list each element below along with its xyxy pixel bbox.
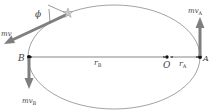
focus-o-label: O [163, 60, 171, 70]
momentum-a-arrow [196, 17, 205, 56]
angle-label: ϕ [35, 9, 41, 19]
radius-b-label: rB [94, 58, 102, 68]
angle-marker [49, 9, 50, 22]
point-b-label: B [17, 53, 25, 63]
point-a-label: A [202, 54, 209, 63]
momentum-b-label: mvB [22, 97, 37, 106]
momentum-general-label: mv [1, 30, 12, 38]
orbit-diagram: ϕ mv mvA mvB B A O rB rA [0, 0, 213, 111]
radius-a-label: rA [179, 59, 187, 69]
momentum-a-label: mvA [188, 7, 203, 16]
focus-o [165, 55, 168, 58]
